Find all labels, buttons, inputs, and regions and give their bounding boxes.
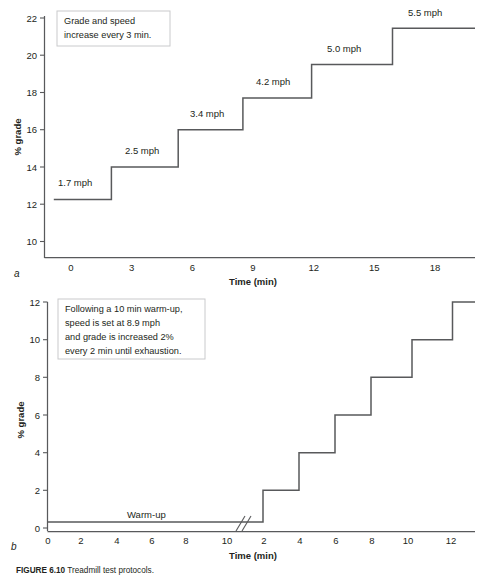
panel-a-ytick-20: 20 (26, 50, 37, 61)
panel-b-ytick-0: 0 (35, 523, 40, 534)
panel-a-xtick-6: 6 (190, 262, 195, 273)
panel-a-svg: 22 20 18 16 14 12 10 % grade 0 3 6 9 12 … (0, 0, 489, 288)
panel-b-annotation-line-4: every 2 min until exhaustion. (65, 346, 181, 356)
panel-a-ytick-14: 14 (26, 162, 37, 173)
panel-a-y-axis-title: % grade (12, 119, 23, 156)
panel-a-speed-label-2: 2.5 mph (125, 145, 159, 156)
panel-a-x-axis-title: Time (min) (229, 276, 277, 287)
panel-b-y-axis-title: % grade (15, 402, 26, 439)
panel-b-y-tick-labels: 12 10 8 6 4 2 0 (29, 297, 40, 534)
panel-b-letter: b (11, 541, 17, 552)
panel-b-y-ticks (43, 302, 48, 528)
panel-b-xtick-t12: 12 (446, 535, 457, 546)
panel-b-xtick-w6: 6 (149, 535, 154, 546)
panel-b-xtick-t4: 4 (297, 535, 302, 546)
figure-caption-prefix: FIGURE 6.10 (16, 566, 65, 575)
panel-b-annotation-line-3: and grade is increased 2% (65, 332, 174, 342)
panel-b-annotation-line-1: Following a 10 min warm-up, (65, 304, 182, 314)
panel-a-ytick-12: 12 (26, 199, 37, 210)
panel-a-ytick-16: 16 (26, 124, 37, 135)
panel-a-speed-label-5: 5.0 mph (327, 43, 361, 54)
panel-a-y-tick-labels: 22 20 18 16 14 12 10 (26, 13, 37, 248)
panel-b-annotation: Following a 10 min warm-up, speed is set… (58, 299, 205, 359)
panel-b-xtick-t6: 6 (333, 535, 338, 546)
panel-a-speed-label-1: 1.7 mph (58, 177, 92, 188)
figure-caption-text: Treadmill test protocols. (67, 566, 154, 575)
panel-b-xtick-w4: 4 (114, 535, 119, 546)
panel-b-annotation-line-2: speed is set at 8.9 mph (65, 318, 160, 328)
panel-b-xtick-w10: 10 (222, 535, 233, 546)
panel-a-ytick-22: 22 (26, 13, 37, 24)
panel-a-xtick-9: 9 (250, 262, 255, 273)
panel-b-x-tick-labels: 0 2 4 6 8 10 2 4 6 8 10 12 (45, 535, 456, 546)
panel-b-warmup-label: Warm-up (127, 509, 166, 520)
panel-a-xtick-18: 18 (430, 262, 441, 273)
panel-a-x-tick-labels: 0 3 6 9 12 15 18 (68, 262, 440, 273)
panel-b-xtick-t2: 2 (261, 535, 266, 546)
panel-b-x-axis-title: Time (min) (229, 550, 277, 561)
panel-a-speed-label-6: 5.5 mph (408, 7, 442, 18)
panel-a-annotation-line-2: increase every 3 min. (64, 30, 151, 40)
panel-a-annotation: Grade and speed increase every 3 min. (57, 11, 170, 46)
panel-b-xtick-w8: 8 (183, 535, 188, 546)
figure-treadmill-protocols: 22 20 18 16 14 12 10 % grade 0 3 6 9 12 … (0, 0, 489, 576)
panel-b-ytick-2: 2 (35, 485, 40, 496)
panel-b-xtick-w0: 0 (45, 535, 50, 546)
panel-a-xtick-15: 15 (369, 262, 380, 273)
panel-b-xtick-t8: 8 (369, 535, 374, 546)
panel-a-step-series (54, 28, 475, 199)
panel-b-axis-break-icon (236, 516, 251, 531)
panel-a-annotation-line-1: Grade and speed (64, 16, 135, 26)
panel-a-speed-label-3: 3.4 mph (190, 108, 224, 119)
panel-b-xtick-t10: 10 (403, 535, 414, 546)
panel-a-ytick-18: 18 (26, 87, 37, 98)
panel-a-y-ticks (40, 18, 45, 242)
panel-a-speed-label-4: 4.2 mph (256, 76, 290, 87)
panel-b-ytick-8: 8 (35, 372, 40, 383)
panel-b-ytick-10: 10 (29, 334, 40, 345)
panel-b-xtick-w2: 2 (78, 535, 83, 546)
panel-a-xtick-3: 3 (129, 262, 134, 273)
figure-caption: FIGURE 6.10 Treadmill test protocols. (16, 566, 476, 576)
panel-b-ytick-12: 12 (29, 297, 40, 308)
panel-a-letter: a (14, 268, 20, 279)
chart-panel-b: 12 10 8 6 4 2 0 % grade 0 2 4 6 8 10 2 4… (0, 288, 489, 576)
panel-b-svg: 12 10 8 6 4 2 0 % grade 0 2 4 6 8 10 2 4… (0, 288, 489, 576)
panel-b-ytick-4: 4 (35, 447, 40, 458)
panel-a-ytick-10: 10 (26, 236, 37, 247)
panel-a-xtick-0: 0 (68, 262, 73, 273)
panel-a-xtick-12: 12 (308, 262, 319, 273)
chart-panel-a: 22 20 18 16 14 12 10 % grade 0 3 6 9 12 … (0, 0, 489, 288)
panel-b-ytick-6: 6 (35, 410, 40, 421)
